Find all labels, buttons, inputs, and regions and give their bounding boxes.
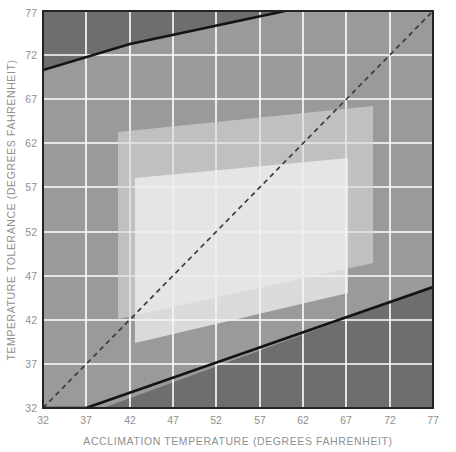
- x-axis-tick-labels: 32 37 42 47 52 57 62 67 72 77: [37, 414, 439, 426]
- x-tick-label: 52: [210, 414, 222, 426]
- y-axis-title: TEMPERATURE TOLERANCE (DEGREES FAHRENHEI…: [5, 59, 17, 360]
- y-tick-label: 52: [25, 226, 37, 238]
- chart-canvas: 32 37 42 47 52 57 62 67 72 77 32 37 42 4…: [0, 0, 456, 452]
- x-tick-label: 37: [80, 414, 92, 426]
- y-tick-label: 67: [25, 93, 37, 105]
- x-axis-title: ACCLIMATION TEMPERATURE (DEGREES FAHRENH…: [83, 435, 392, 447]
- y-tick-label: 32: [25, 402, 37, 414]
- x-tick-label: 72: [384, 414, 396, 426]
- thermal-tolerance-polygon-chart: 32 37 42 47 52 57 62 67 72 77 32 37 42 4…: [0, 0, 456, 452]
- x-tick-label: 62: [297, 414, 309, 426]
- x-tick-label: 42: [124, 414, 136, 426]
- x-tick-label: 67: [340, 414, 352, 426]
- y-tick-label: 62: [25, 137, 37, 149]
- x-tick-label: 77: [427, 414, 439, 426]
- y-tick-label: 57: [25, 181, 37, 193]
- y-axis-tick-labels: 32 37 42 47 52 57 62 67 72 77: [25, 7, 37, 414]
- y-tick-label: 42: [25, 314, 37, 326]
- y-tick-label: 77: [25, 7, 37, 19]
- y-tick-label: 72: [25, 49, 37, 61]
- x-tick-label: 57: [254, 414, 266, 426]
- x-tick-label: 32: [37, 414, 49, 426]
- y-tick-label: 37: [25, 358, 37, 370]
- y-tick-label: 47: [25, 270, 37, 282]
- x-tick-label: 47: [167, 414, 179, 426]
